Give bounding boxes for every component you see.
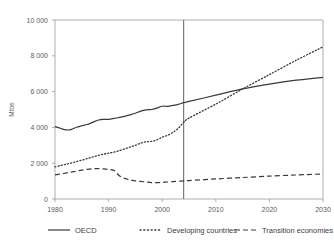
legend-label-transition-economies: Transition economies <box>262 226 333 235</box>
x-tick-label: 2010 <box>208 206 224 213</box>
chart-legend: OECDDeveloping countriesTransition econo… <box>48 226 333 235</box>
y-tick-label: 4 000 <box>30 124 48 131</box>
y-axis-tick-labels: 02 0004 0006 0008 00010 000 <box>27 17 49 203</box>
x-tick-label: 2020 <box>262 206 278 213</box>
legend-label-developing-countries: Developing countries <box>167 226 237 235</box>
y-tick-label: 10 000 <box>27 17 49 24</box>
legend-label-oecd: OECD <box>75 226 97 235</box>
energy-demand-line-chart: 02 0004 0006 0008 00010 000 198019902000… <box>0 0 334 244</box>
chart-canvas: 02 0004 0006 0008 00010 000 198019902000… <box>0 0 334 244</box>
x-tick-label: 2030 <box>315 206 331 213</box>
y-axis-title: Mtoe <box>8 102 15 117</box>
y-tick-label: 6 000 <box>30 88 48 95</box>
series-line-transition-economies <box>55 169 323 183</box>
chart-title-cropped <box>0 0 334 6</box>
x-axis-tick-labels: 198019902000201020202030 <box>47 206 331 213</box>
x-axis-tick-marks <box>55 199 323 202</box>
y-tick-label: 0 <box>44 196 48 203</box>
y-axis-tick-marks <box>52 20 55 199</box>
y-tick-label: 2 000 <box>30 160 48 167</box>
y-tick-label: 8 000 <box>30 52 48 59</box>
plot-frame <box>55 20 323 199</box>
x-tick-label: 2000 <box>154 206 170 213</box>
x-tick-label: 1990 <box>101 206 117 213</box>
series-line-developing-countries <box>55 47 323 167</box>
series-line-oecd <box>55 77 323 130</box>
x-tick-label: 1980 <box>47 206 63 213</box>
